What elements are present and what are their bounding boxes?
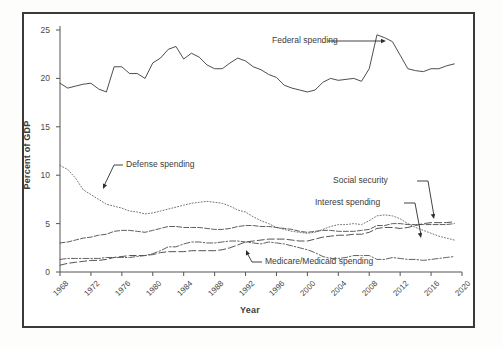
arrowhead-federal-spending — [381, 39, 386, 43]
leader-social-security — [417, 181, 434, 216]
figure-container: Percent of GDP Year 0510152025 196819721… — [0, 0, 503, 348]
arrowhead-social-security — [431, 214, 435, 219]
leader-defense-spending — [104, 165, 123, 186]
leader-medicare-medicaid — [247, 253, 262, 262]
arrowhead-interest-spending — [418, 233, 422, 238]
series-line-social-security — [60, 224, 454, 243]
series-line-interest-spending — [60, 241, 454, 260]
series-line-federal-spending — [60, 35, 454, 92]
series-line-defense-spending — [60, 166, 454, 241]
chart-plot — [0, 0, 503, 348]
leader-interest-spending — [404, 203, 421, 235]
